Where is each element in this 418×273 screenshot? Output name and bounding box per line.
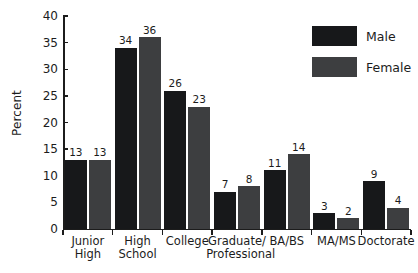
bar-value-label: 14 (284, 142, 314, 153)
bar (264, 170, 286, 229)
bar (188, 107, 210, 229)
y-axis-tick-label: 15 (32, 143, 58, 155)
bar (387, 208, 409, 229)
y-axis-tick-label: 5 (32, 196, 58, 208)
bar (288, 154, 310, 229)
legend-item: Female (312, 57, 411, 77)
bar (313, 213, 335, 229)
chart-legend: MaleFemale (312, 26, 411, 88)
bar (337, 218, 359, 229)
bar-value-label: 9 (359, 169, 389, 180)
bar-value-label: 13 (85, 147, 115, 158)
category-label-line: School (107, 248, 169, 261)
x-axis-category-label: Doctorate (355, 235, 417, 248)
bar-value-label: 34 (111, 35, 141, 46)
y-axis-tick-label: 40 (32, 10, 58, 22)
bar (65, 160, 87, 229)
bar (363, 181, 385, 229)
category-label-line: Junior (71, 234, 104, 248)
bar-value-label: 2 (333, 206, 363, 217)
bar (238, 186, 260, 229)
bar (89, 160, 111, 229)
y-axis-tick-label: 20 (32, 117, 58, 129)
category-label-line: Professional (206, 248, 268, 261)
y-axis-tick-label: 35 (32, 37, 58, 49)
legend-label: Male (366, 29, 396, 44)
bar (214, 192, 236, 229)
y-axis-title: Percent (10, 63, 24, 163)
bar (164, 91, 186, 229)
legend-label: Female (366, 60, 411, 75)
bar-value-label: 23 (184, 94, 214, 105)
bar-value-label: 4 (383, 195, 413, 206)
category-label-line: BA/BS (269, 234, 304, 248)
bar-chart: Percent 0510152025303540 131334362623781… (0, 0, 418, 273)
bar-value-label: 11 (260, 158, 290, 169)
legend-item: Male (312, 26, 411, 46)
y-axis-tick-label: 0 (32, 223, 58, 235)
legend-swatch (312, 26, 357, 46)
bar-value-label: 26 (160, 78, 190, 89)
bar-value-label: 8 (234, 174, 264, 185)
bar-value-label: 36 (135, 25, 165, 36)
bar (115, 48, 137, 229)
category-label-line: College (166, 234, 209, 248)
category-label-line: MA/MS (317, 234, 356, 248)
y-axis-tick-label: 30 (32, 63, 58, 75)
category-label-line: Doctorate (358, 234, 415, 248)
y-axis-tick-label: 10 (32, 170, 58, 182)
category-label-line: High (124, 234, 150, 248)
legend-swatch (312, 57, 357, 77)
y-axis-tick-label: 25 (32, 90, 58, 102)
bar (139, 37, 161, 229)
